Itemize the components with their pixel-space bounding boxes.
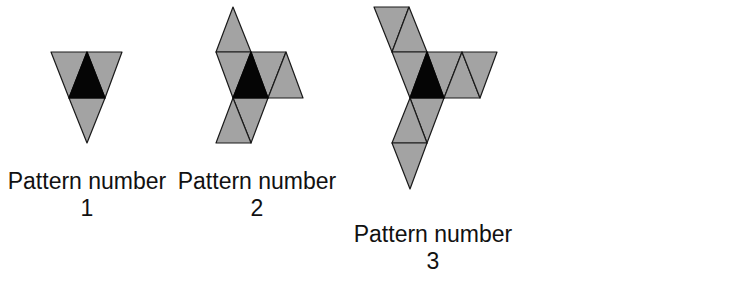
- gray-triangle: [216, 7, 251, 52]
- pattern-2-shape: [216, 7, 303, 143]
- pattern-2-number: 2: [178, 195, 337, 222]
- pattern-3-caption: Pattern number 3: [354, 221, 513, 275]
- gray-triangle: [69, 98, 105, 143]
- pattern-2-caption: Pattern number 2: [178, 168, 337, 222]
- pattern-1-label: Pattern number: [8, 168, 167, 195]
- pattern-3-number: 3: [354, 248, 513, 275]
- pattern-2-label: Pattern number: [178, 168, 337, 195]
- gray-triangle: [392, 143, 427, 189]
- pattern-3-label: Pattern number: [354, 221, 513, 248]
- pattern-1-shape: [51, 52, 122, 143]
- pattern-3-shape: [374, 7, 497, 189]
- pattern-1-caption: Pattern number 1: [8, 168, 167, 222]
- pattern-1-number: 1: [8, 195, 167, 222]
